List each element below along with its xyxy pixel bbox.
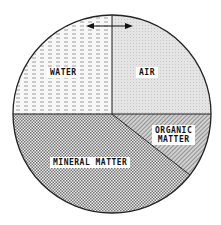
slice-water bbox=[13, 15, 112, 114]
slice-air bbox=[112, 15, 211, 114]
label-mineral-matter: MINERAL MATTER bbox=[50, 157, 130, 168]
label-organic-line1: ORGANIC bbox=[155, 126, 192, 135]
label-organic-matter: ORGANIC MATTER bbox=[152, 125, 195, 145]
label-air: AIR bbox=[136, 67, 158, 78]
label-organic-line2: MATTER bbox=[155, 135, 192, 144]
label-water: WATER bbox=[47, 67, 80, 78]
pie-chart bbox=[0, 0, 221, 225]
